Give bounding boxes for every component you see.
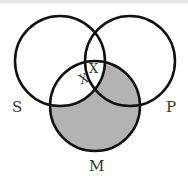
label-p: P xyxy=(166,98,176,116)
mark-x-upper: X xyxy=(89,61,99,76)
label-s: S xyxy=(12,98,22,116)
venn-diagram: X X S P M xyxy=(0,0,188,176)
label-m: M xyxy=(89,157,104,175)
